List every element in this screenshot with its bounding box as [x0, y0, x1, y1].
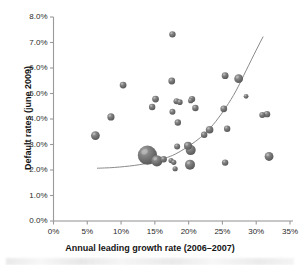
plot-area	[0, 0, 300, 265]
bubble-point	[185, 160, 195, 170]
bubble-point	[175, 119, 181, 125]
bubble-point	[265, 152, 274, 161]
bubble-point	[201, 132, 207, 138]
bubble-point	[174, 144, 180, 150]
bubble-point	[220, 105, 227, 112]
bubble-point	[173, 166, 178, 171]
bubble-scatter-chart: Default rates (june 2009) Annual leading…	[0, 0, 300, 265]
axis-lines	[50, 17, 293, 225]
bubble-point	[192, 105, 198, 111]
bubble-point	[171, 160, 176, 165]
bubble-point	[206, 126, 214, 134]
bubble-point	[224, 125, 230, 131]
bubble-point	[149, 104, 155, 110]
bubble-point	[120, 82, 127, 89]
bubble-point	[188, 98, 193, 103]
bubble-point	[244, 94, 249, 99]
bubble-point	[169, 31, 175, 37]
bubble-point	[184, 142, 192, 150]
bubble-point	[222, 159, 228, 165]
bubble-point	[151, 155, 162, 166]
bubble-point	[152, 96, 159, 103]
bubble-point	[222, 72, 229, 79]
bubble-point	[160, 156, 166, 162]
scan-artifact-smudge	[6, 258, 294, 265]
bubble-point	[169, 109, 175, 115]
bubble-point	[91, 131, 100, 140]
bubble-point	[168, 78, 175, 85]
bubble-point	[234, 74, 243, 83]
bubble-point	[107, 113, 114, 120]
bubble-point	[259, 112, 265, 118]
bubble-point	[177, 99, 183, 105]
